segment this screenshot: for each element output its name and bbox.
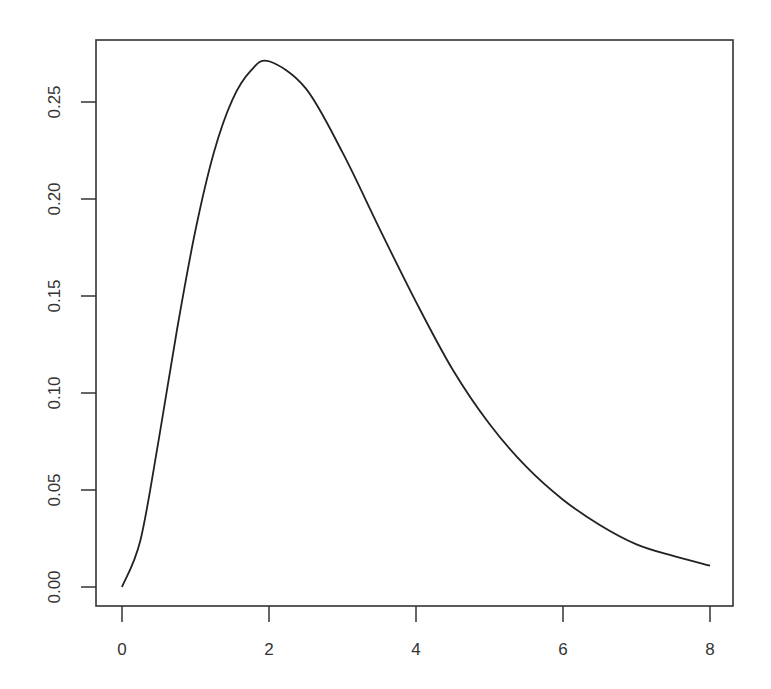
x-tick-label: 8 <box>705 640 714 659</box>
y-tick-label: 0.15 <box>45 279 64 312</box>
y-tick-label: 0.10 <box>45 376 64 409</box>
y-tick-label: 0.05 <box>45 473 64 506</box>
density-curve <box>122 61 710 587</box>
x-tick-label: 0 <box>117 640 126 659</box>
y-tick-label: 0.25 <box>45 85 64 118</box>
x-tick-label: 4 <box>411 640 420 659</box>
chart: 02468 0.000.050.100.150.200.25 <box>0 0 771 689</box>
y-tick-label: 0.20 <box>45 182 64 215</box>
y-tick-label: 0.00 <box>45 570 64 603</box>
x-tick-label: 6 <box>558 640 567 659</box>
x-axis: 02468 <box>117 606 714 659</box>
plot-box <box>96 40 733 606</box>
y-axis: 0.000.050.100.150.200.25 <box>45 85 96 603</box>
x-tick-label: 2 <box>264 640 273 659</box>
